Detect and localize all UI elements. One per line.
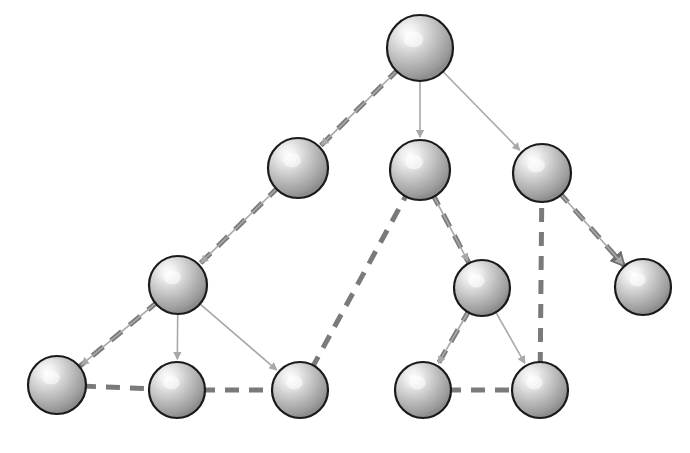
node-highlight <box>528 159 545 173</box>
graph-nodes <box>28 15 671 418</box>
node-highlight <box>163 376 180 389</box>
graph-node-n9[interactable] <box>272 362 328 418</box>
tree-edge-n4-n9 <box>198 303 276 370</box>
path-edge-n11-n3 <box>540 198 542 366</box>
node-sphere <box>395 362 451 418</box>
path-edge-n7-n8 <box>82 386 153 389</box>
path-edge-n9-n2 <box>311 193 407 369</box>
graph-node-n2[interactable] <box>390 140 450 200</box>
tree-diagram <box>0 0 690 453</box>
tree-edge-n0-n1 <box>322 70 398 145</box>
node-sphere <box>512 362 568 418</box>
tree-edge-n4-n7 <box>82 302 158 364</box>
node-highlight <box>409 376 426 389</box>
graph-node-n3[interactable] <box>513 144 571 202</box>
node-highlight <box>164 271 181 285</box>
node-sphere <box>149 362 205 418</box>
graph-node-n11[interactable] <box>512 362 568 418</box>
node-highlight <box>526 376 543 389</box>
node-sphere <box>387 15 453 81</box>
node-sphere <box>28 356 86 414</box>
node-sphere <box>615 259 671 315</box>
tree-edge-n3-n6 <box>560 193 623 264</box>
caption-fragment <box>0 441 690 453</box>
graph-node-n0[interactable] <box>387 15 453 81</box>
tree-edge-n1-n4 <box>201 188 278 263</box>
tree-edge-n0-n3 <box>442 70 520 150</box>
graph-node-n10[interactable] <box>395 362 451 418</box>
graph-canvas <box>0 0 690 453</box>
graph-node-n4[interactable] <box>149 256 207 314</box>
node-sphere <box>272 362 328 418</box>
node-highlight <box>629 273 646 286</box>
node-sphere <box>513 144 571 202</box>
node-highlight <box>283 153 301 167</box>
node-highlight <box>468 274 485 287</box>
node-sphere <box>454 260 510 316</box>
tree-edge-n2-n5 <box>433 195 468 261</box>
node-highlight <box>405 155 423 169</box>
graph-node-n5[interactable] <box>454 260 510 316</box>
graph-node-n7[interactable] <box>28 356 86 414</box>
graph-node-n8[interactable] <box>149 362 205 418</box>
graph-node-n6[interactable] <box>615 259 671 315</box>
node-sphere <box>149 256 207 314</box>
tree-edge-n5-n10 <box>439 311 469 364</box>
node-sphere <box>390 140 450 200</box>
node-highlight <box>404 31 424 47</box>
tree-edge-n5-n11 <box>495 311 525 363</box>
graph-node-n1[interactable] <box>268 138 328 198</box>
node-sphere <box>268 138 328 198</box>
node-highlight <box>43 371 60 385</box>
node-highlight <box>286 376 303 389</box>
